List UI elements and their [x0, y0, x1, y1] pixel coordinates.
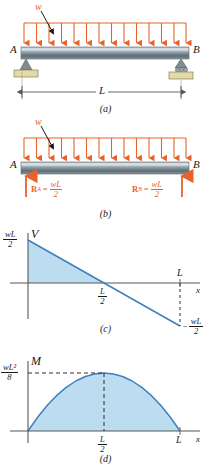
span-label: L — [96, 85, 108, 96]
beam-body-b — [21, 162, 189, 174]
shear-peak-fraction: wL 2 — [3, 230, 17, 248]
panel-a-drawing — [0, 0, 211, 118]
shear-tick-label-end: L — [177, 268, 183, 278]
pin-support-left — [14, 59, 38, 77]
moment-axis-label-m: M — [31, 355, 41, 367]
node-label-b-right: B — [193, 159, 200, 170]
load-arrow-group — [24, 23, 186, 43]
moment-mid-fraction: L 2 — [98, 435, 107, 453]
shear-mid-denominator: 2 — [98, 297, 107, 306]
shear-axis-label-v: V — [31, 228, 38, 240]
moment-mid-denominator: 2 — [98, 445, 107, 454]
node-label-a-right: B — [193, 44, 200, 55]
roller-support-right — [169, 59, 193, 79]
reaction-left-fraction: wL 2 — [50, 180, 62, 198]
shear-peak-label: wL 2 — [3, 230, 17, 248]
panel-caption-a: (a) — [0, 103, 211, 114]
moment-peak-fraction: wL² 8 — [1, 363, 18, 381]
moment-peak-denominator: 8 — [1, 373, 18, 382]
reaction-right-subscript: B — [138, 186, 142, 192]
node-label-b-left: A — [10, 159, 17, 170]
shear-mid-fraction: L 2 — [98, 287, 107, 305]
beam-body — [21, 47, 189, 59]
moment-peak-label: wL² 8 — [1, 363, 18, 381]
panel-caption-b: (b) — [0, 208, 211, 219]
panel-c-shear-diagram: V wL 2 L 2 L x − wL 2 (c) — [0, 223, 211, 343]
panel-b-free-body-diagram: w A B RA = wL 2 RB = wL 2 (b) — [0, 118, 211, 223]
shear-peak-denominator: 2 — [3, 240, 17, 249]
shear-axis-label-x: x — [196, 286, 200, 295]
reaction-left-subscript: A — [37, 186, 41, 192]
reaction-left-denominator: 2 — [50, 190, 62, 199]
load-leader-line-b — [41, 126, 53, 148]
panel-caption-d: (d) — [0, 453, 211, 464]
load-label-a: w — [35, 2, 42, 12]
load-label-b: w — [35, 117, 42, 127]
moment-axis-label-x: x — [196, 435, 200, 444]
moment-tick-label-mid: L 2 — [98, 435, 107, 453]
reaction-right-equals: = — [144, 185, 149, 194]
load-leader-line — [41, 11, 53, 33]
reaction-label-left: RA = wL 2 — [31, 180, 62, 198]
panel-a-loaded-beam: w A B L (a) — [0, 0, 211, 118]
moment-tick-label-end: L — [176, 435, 182, 445]
panel-caption-c: (c) — [0, 323, 211, 334]
reaction-left-equals: = — [43, 185, 48, 194]
panel-d-moment-diagram: M wL² 8 L 2 L x (d) — [0, 343, 211, 470]
load-arrow-group-b — [24, 138, 186, 158]
shear-tick-label-mid: L 2 — [98, 287, 107, 305]
reaction-right-fraction: wL 2 — [151, 180, 163, 198]
node-label-a-left: A — [10, 44, 17, 55]
reaction-right-denominator: 2 — [151, 190, 163, 199]
reaction-label-right: RB = wL 2 — [132, 180, 163, 198]
